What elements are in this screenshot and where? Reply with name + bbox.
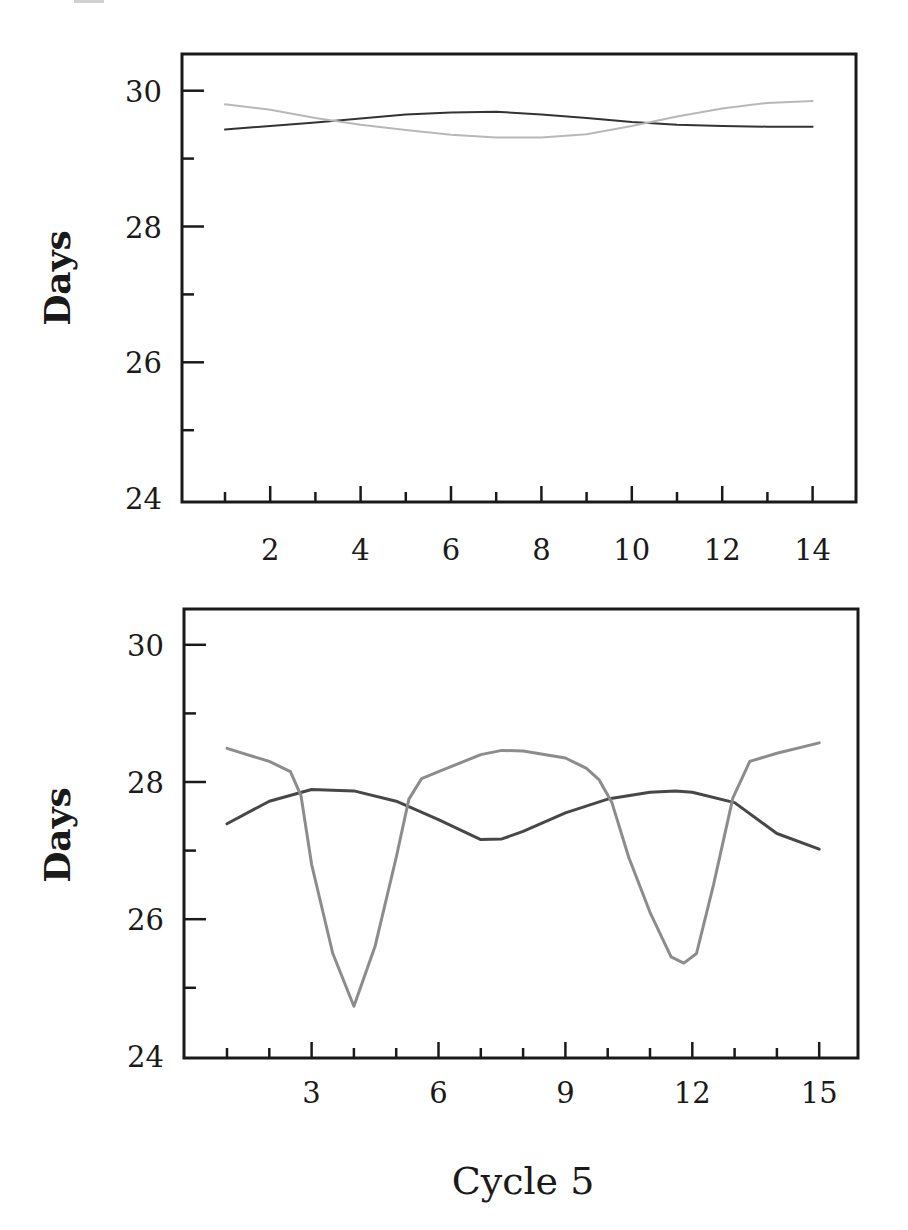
bottom-chart-y-axis-label: Days (36, 787, 78, 883)
top-series-light (225, 101, 813, 138)
x-tick-label: 6 (442, 533, 460, 567)
bottom-chart-tick-labels: 369121524262830 (127, 629, 838, 1110)
x-tick-label: 8 (532, 533, 550, 567)
top-chart-frame (182, 54, 856, 502)
x-tick-label: 6 (429, 1076, 447, 1110)
x-tick-label: 14 (794, 533, 831, 567)
figure: 246810121424262830 Days 369121524262830 … (0, 0, 908, 1230)
bottom-chart-series (227, 743, 819, 1006)
crop-mark (74, 0, 104, 3)
x-tick-label: 3 (302, 1076, 320, 1110)
bottom-series-dark (227, 790, 819, 850)
top-chart-ticks (182, 91, 813, 502)
top-chart-panel: 246810121424262830 Days (36, 54, 856, 567)
y-tick-label: 30 (125, 75, 162, 109)
bottom-chart-ticks (184, 645, 819, 1058)
x-tick-label: 12 (674, 1076, 711, 1110)
y-tick-label: 24 (127, 1040, 164, 1074)
x-tick-label: 10 (613, 533, 650, 567)
top-series-dark (225, 112, 813, 130)
x-tick-label: 15 (801, 1076, 838, 1110)
y-tick-label: 28 (127, 766, 164, 800)
y-tick-label: 28 (125, 211, 162, 245)
x-tick-label: 2 (261, 533, 279, 567)
bottom-chart-x-axis-label: Cycle 5 (452, 1159, 595, 1203)
y-tick-label: 24 (125, 482, 162, 516)
top-chart-tick-labels: 246810121424262830 (125, 75, 831, 567)
y-tick-label: 26 (125, 346, 162, 380)
x-tick-label: 12 (704, 533, 741, 567)
x-tick-label: 9 (556, 1076, 574, 1110)
y-tick-label: 26 (127, 903, 164, 937)
top-chart-y-axis-label: Days (36, 230, 78, 326)
x-tick-label: 4 (351, 533, 369, 567)
y-tick-label: 30 (127, 629, 164, 663)
bottom-series-light (227, 743, 819, 1006)
bottom-chart-panel: 369121524262830 Days Cycle 5 (36, 609, 858, 1203)
top-chart-series (225, 101, 813, 138)
